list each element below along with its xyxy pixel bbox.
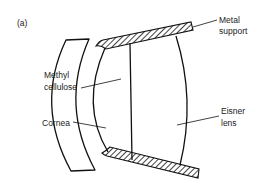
leader-metal-support — [193, 20, 217, 27]
cornea-shape — [52, 39, 95, 171]
cellulose-boundary-line — [130, 43, 132, 160]
leader-eisner-lens — [177, 116, 219, 125]
label-cellulose: cellulose — [44, 82, 77, 92]
eisner-lens-curve — [176, 36, 187, 165]
panel-label: (a) — [17, 18, 27, 28]
lens-inner-curve — [93, 48, 108, 152]
label-lens: lens — [221, 118, 237, 128]
label-methyl: Methyl — [44, 70, 69, 80]
metal-support-bottom — [102, 147, 199, 178]
label-metal: Metal — [219, 15, 240, 25]
label-eisner: Eisner — [221, 106, 245, 116]
label-support: support — [219, 26, 247, 36]
label-cornea: Cornea — [42, 118, 70, 128]
leader-methyl-cellulose — [81, 79, 121, 88]
